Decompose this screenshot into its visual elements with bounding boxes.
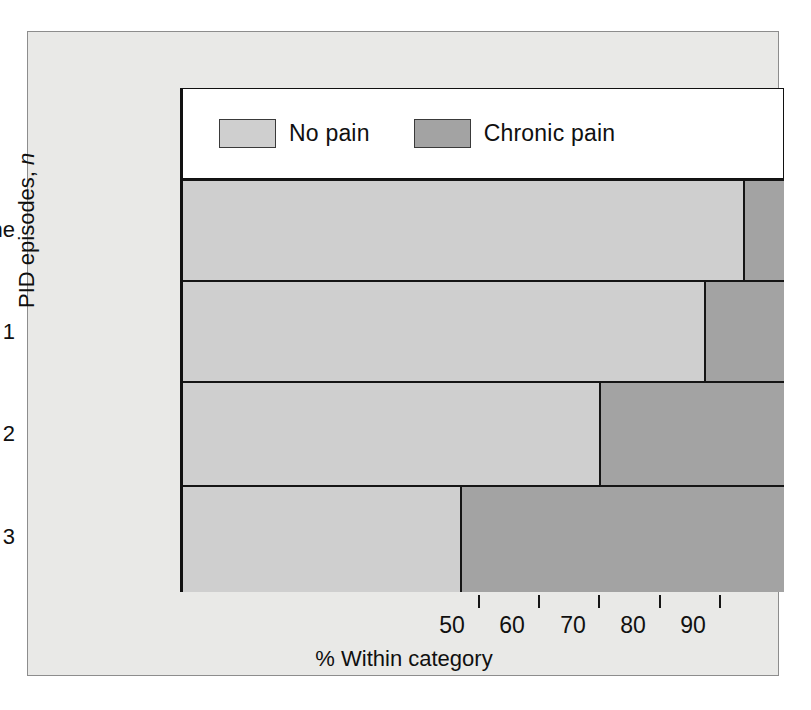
legend-item-no-pain: No pain [219,119,370,148]
x-tick-mark [719,595,721,608]
plot-area: No pain Chronic pain [180,88,781,592]
bar-segment-chronic-pain [706,282,784,381]
x-tick-mark [478,595,480,608]
legend-item-chronic-pain: Chronic pain [414,119,616,148]
bar-row [183,179,784,280]
y-tick-label-2: 2 [0,421,15,447]
x-tick-label-70: 70 [543,612,603,639]
bar-segment-no-pain [183,181,745,280]
y-tick-label-1: 1 [0,319,15,345]
x-tick-label-50: 50 [422,612,482,639]
figure-frame: PID episodes, n None 1 2 ≥ 3 No pain Chr… [27,31,779,676]
x-tick-label-60: 60 [482,612,542,639]
bar-segment-no-pain [183,487,462,592]
x-tick-label-80: 80 [603,612,663,639]
x-axis-title: % Within category [28,646,780,672]
y-axis-title: PID episodes, n [14,153,40,308]
legend-swatch-chronic-pain [414,119,471,148]
x-tick-label-90: 90 [663,612,723,639]
bar-segment-chronic-pain [601,383,784,485]
legend: No pain Chronic pain [183,88,784,179]
y-axis-title-italic: n [14,153,39,165]
legend-label-no-pain: No pain [289,120,370,147]
legend-swatch-no-pain [219,119,276,148]
legend-label-chronic-pain: Chronic pain [484,120,616,147]
bar-row [183,381,784,485]
bar-group [183,179,784,592]
bar-row [183,485,784,592]
bar-segment-no-pain [183,282,706,381]
y-axis-title-text: PID episodes, [14,165,39,308]
x-tick-mark [659,595,661,608]
bar-segment-no-pain [183,383,601,485]
bar-segment-chronic-pain [745,181,784,280]
y-tick-label-none: None [0,217,15,243]
figure-container: PID episodes, n None 1 2 ≥ 3 No pain Chr… [0,0,811,710]
bar-row [183,280,784,381]
y-tick-label-3plus: ≥ 3 [0,524,15,550]
x-tick-mark [538,595,540,608]
bar-segment-chronic-pain [462,487,784,592]
x-tick-mark [598,595,600,608]
